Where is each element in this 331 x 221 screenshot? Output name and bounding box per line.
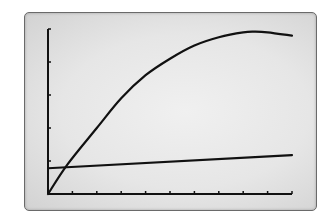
axes: [48, 29, 292, 194]
line-series: [48, 155, 292, 168]
graph-plot: [0, 0, 331, 221]
curve-series: [48, 32, 292, 194]
plotted-series: [48, 32, 292, 194]
